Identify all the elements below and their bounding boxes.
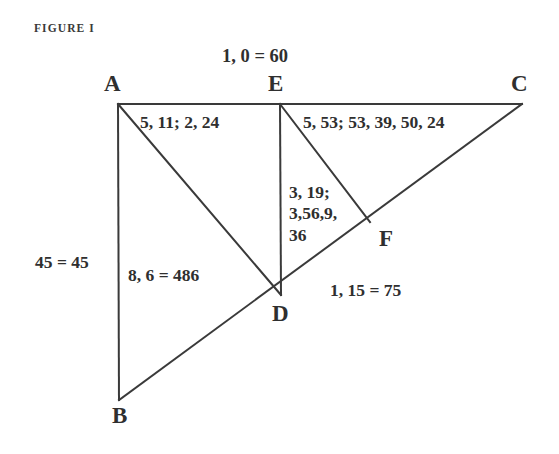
annotation-top: 1, 0 = 60 xyxy=(222,45,288,68)
vertex-label-d: D xyxy=(272,302,289,325)
geometry-diagram xyxy=(0,0,559,454)
segment-b-c xyxy=(119,104,522,400)
annotation-left-side: 45 = 45 xyxy=(35,252,89,273)
vertex-label-b: B xyxy=(112,404,127,427)
annotation-center-line-1: 3, 19; xyxy=(289,182,337,203)
segment-a-b xyxy=(118,104,119,400)
annotation-upper-right: 5, 53; 53, 39, 50, 24 xyxy=(303,112,444,133)
annotation-center-line-2: 3,56,9, xyxy=(289,203,337,224)
annotation-center-column: 3, 19; 3,56,9, 36 xyxy=(289,182,337,246)
vertex-label-c: C xyxy=(511,72,528,95)
vertex-label-f: F xyxy=(379,227,393,250)
annotation-lower-left: 8, 6 = 486 xyxy=(128,265,199,286)
annotation-lower-right: 1, 15 = 75 xyxy=(330,280,401,301)
annotation-center-line-3: 36 xyxy=(289,225,337,246)
figure-canvas: FIGURE I A E C F D B 1, 0 = 60 5, 11; 2,… xyxy=(0,0,559,454)
vertex-label-a: A xyxy=(104,72,121,95)
vertex-label-e: E xyxy=(268,72,283,95)
segment-e-d xyxy=(280,104,281,295)
annotation-upper-left: 5, 11; 2, 24 xyxy=(140,112,219,133)
